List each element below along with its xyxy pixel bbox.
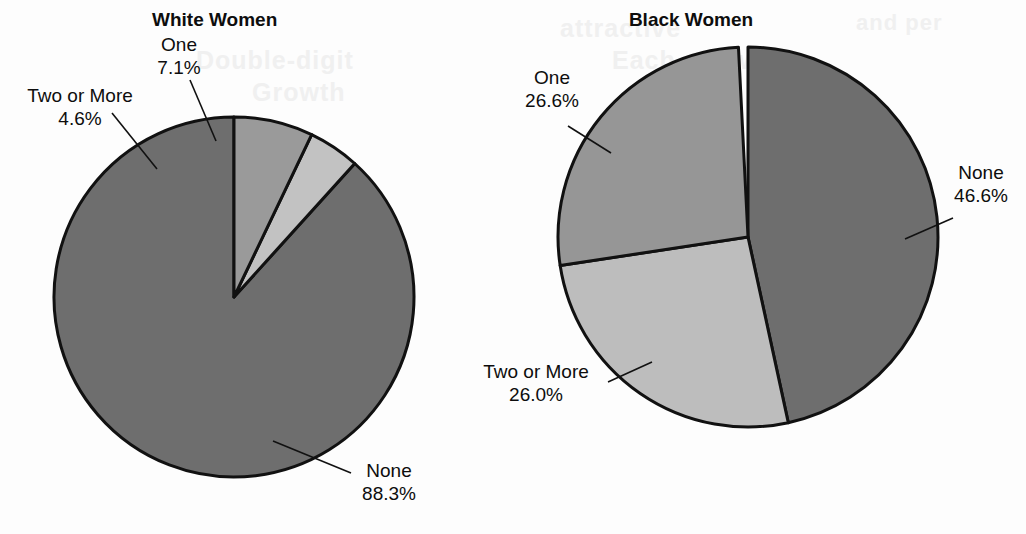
- chart-title-black-women: Black Women: [628, 8, 754, 31]
- slice-label-white-two-or-more: Two or More 4.6%: [16, 84, 144, 130]
- slice-label-black-none-text: None: [944, 161, 1018, 184]
- slice-label-white-one: One 7.1%: [140, 33, 218, 79]
- pie-black-women: [558, 47, 938, 427]
- slice-label-white-one-value: 7.1%: [140, 56, 218, 79]
- slice-label-black-two-or-more-text: Two or More: [472, 360, 600, 383]
- slice-label-white-none-value: 88.3%: [352, 482, 426, 505]
- slice-label-white-none: None 88.3%: [352, 459, 426, 505]
- slice-label-black-none-value: 46.6%: [944, 184, 1018, 207]
- slice-label-black-one: One 26.6%: [512, 66, 592, 112]
- slice-label-black-two-or-more: Two or More 26.0%: [472, 360, 600, 406]
- slice-label-black-one-value: 26.6%: [512, 89, 592, 112]
- slice-label-white-two-or-more-value: 4.6%: [16, 107, 144, 130]
- slice-label-white-none-text: None: [352, 459, 426, 482]
- pie-white-women: [54, 117, 414, 477]
- chart-title-white-women: White Women: [152, 8, 274, 31]
- pie-chart-figure: attractive Double-digit Each and with Gr…: [0, 0, 1026, 534]
- slice-label-white-two-or-more-text: Two or More: [16, 84, 144, 107]
- slice-label-white-one-text: One: [140, 33, 218, 56]
- slice-label-black-one-text: One: [512, 66, 592, 89]
- slice-label-black-none: None 46.6%: [944, 161, 1018, 207]
- slice-label-black-two-or-more-value: 26.0%: [472, 383, 600, 406]
